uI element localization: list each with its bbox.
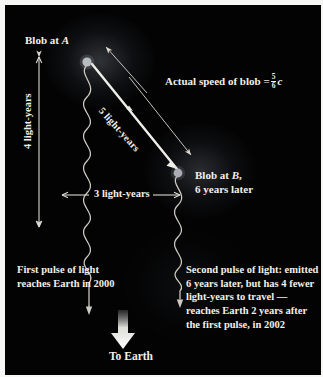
label-first-pulse: First pulse of light reaches Earth in 20… [17, 263, 121, 291]
label-actual-speed-prefix: Actual speed of blob = [165, 75, 270, 87]
speed-fraction: 56 [271, 73, 277, 89]
label-blob-b-point: B [232, 169, 239, 181]
label-blob-b-line2: 6 years later [195, 183, 253, 195]
measure-vertical-4ly [36, 57, 42, 227]
label-blob-a-text: Blob at [25, 34, 59, 46]
speed-denominator: 6 [271, 82, 277, 90]
figure-root: Blob at A Actual speed of blob =56c Blob… [0, 0, 323, 377]
label-actual-speed: Actual speed of blob =56c [165, 73, 282, 89]
blob-b-marker [171, 166, 185, 180]
label-blob-b-prefix: Blob at [195, 169, 229, 181]
label-to-earth: To Earth [109, 350, 153, 364]
label-3-light-years: 3 light-years [94, 188, 150, 200]
label-blob-b: Blob at B, 6 years later [195, 169, 315, 197]
label-4-light-years: 4 light-years [22, 93, 34, 149]
label-second-pulse: Second pulse of light: emitted 6 years l… [186, 263, 321, 331]
to-earth-arrow [111, 310, 135, 349]
label-blob-b-comma: , [239, 169, 242, 181]
pointer-arrow-to-blob-a [106, 47, 147, 93]
label-blob-a-point: A [62, 34, 69, 46]
blob-a-marker [80, 55, 95, 70]
diagram-panel: Blob at A Actual speed of blob =56c Blob… [5, 5, 321, 375]
label-blob-a: Blob at A [25, 34, 69, 47]
speed-unit: c [277, 75, 282, 87]
